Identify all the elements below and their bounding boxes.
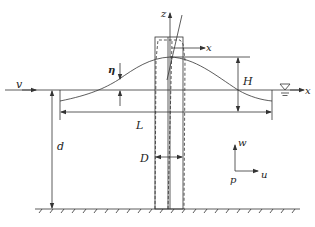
label-x-local: x [206, 42, 212, 53]
label-w: w [238, 137, 247, 148]
label-d: d [57, 140, 64, 153]
label-u: u [261, 169, 267, 180]
wave-profile [60, 57, 272, 101]
label-H: H [242, 75, 253, 88]
label-L: L [135, 119, 143, 132]
seabed-hatch [39, 209, 295, 213]
label-z: z [160, 8, 167, 19]
label-D: D [139, 152, 149, 165]
wave-pile-diagram: z x v η H L d D w u p x [0, 0, 315, 227]
label-eta: η [108, 64, 115, 75]
label-x-global: x [305, 85, 311, 96]
label-p: p [230, 174, 237, 185]
label-v: v [16, 78, 23, 91]
